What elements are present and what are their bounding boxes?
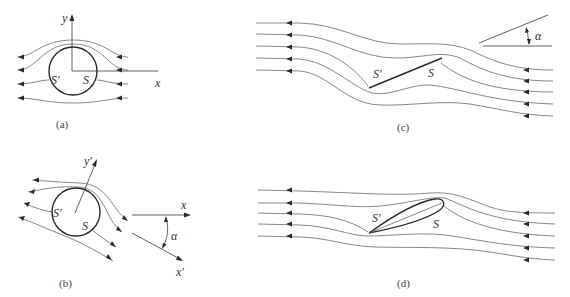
panel-caption: (b) (59, 277, 72, 290)
angle-arc (163, 218, 168, 247)
streamline (17, 80, 128, 84)
angle-arrow-icon (164, 216, 168, 222)
streamline (17, 40, 128, 57)
stagnation-point-front-label: S (428, 66, 434, 80)
y-prime-axis-label: y′ (83, 154, 92, 168)
x-prime-axis-arrow-icon (176, 256, 183, 262)
streamline (18, 217, 113, 261)
flow-arrows (18, 55, 122, 101)
angle-arrow-icon (527, 39, 531, 45)
stagnation-point-front-label: S (433, 217, 439, 231)
stagnation-point-front-label: S (82, 219, 88, 233)
panel-c: S′ S α (c) (256, 15, 553, 134)
angle-arrow-icon (525, 27, 529, 33)
flow-arrows (286, 21, 529, 119)
panel-caption: (c) (397, 121, 410, 134)
stagnation-point-rear-label: S′ (373, 67, 382, 81)
streamline (256, 46, 553, 92)
stagnation-point-rear-label: S′ (51, 73, 60, 87)
panel-caption: (d) (397, 277, 410, 290)
panel-b: y′ S′ S x x′ α (b) (18, 154, 191, 290)
angle-label: α (535, 29, 542, 43)
flow-arrows (286, 188, 529, 263)
stagnation-point-rear-label: S′ (372, 211, 381, 225)
stagnation-point-front-label: S (83, 73, 89, 87)
panel-caption: (a) (56, 118, 69, 131)
figure-canvas: y x S′ S (a) y′ S′ S x (0, 0, 570, 297)
y-axis-arrow-icon (70, 14, 75, 21)
x-prime-axis-label: x′ (175, 265, 184, 279)
angle-arrow-icon (162, 243, 167, 249)
angle-label: α (171, 229, 178, 243)
streamline (32, 180, 127, 220)
streamline (17, 44, 128, 70)
panel-d: S′ S (d) (258, 188, 555, 291)
y-axis-label: y (61, 11, 68, 25)
streamline (17, 98, 128, 103)
stagnation-point-rear-label: S′ (53, 206, 62, 220)
y-prime-axis-arrow-icon (92, 159, 97, 167)
streamline (258, 236, 555, 260)
panel-a: y x S′ S (a) (17, 11, 161, 131)
x-axis-label: x (154, 76, 161, 90)
x-axis-label: x (180, 198, 187, 212)
x-axis-arrow-icon (184, 213, 191, 218)
streamline (256, 23, 553, 70)
flow-arrows (19, 178, 128, 261)
streamline (258, 198, 555, 224)
streamline (258, 224, 555, 248)
